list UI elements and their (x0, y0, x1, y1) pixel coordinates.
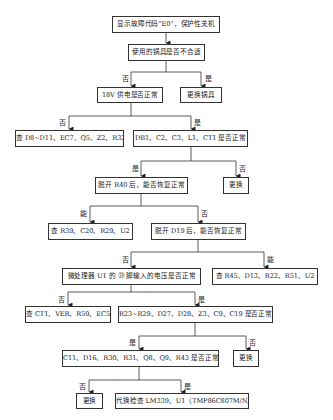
edge-label-no: 否 (59, 119, 66, 127)
edge-label-no: 否 (201, 210, 208, 218)
edge-label-no: 否 (239, 165, 246, 173)
edge-label-yes: 是 (198, 296, 205, 304)
node-c11-r43-check: C11、D16、R30、R31、Q8、Q9、R43 是否正常 (62, 350, 219, 367)
node-disconnect-d19: 脱开 D19 后，能否恢复正常 (151, 223, 246, 240)
node-replace-2: 更换 (233, 350, 259, 367)
node-u1-pin-voltage: 微处理器 U1 的 ㉓ 脚输入的电压是否正常 (62, 268, 201, 285)
edge-label-can: 能 (80, 210, 87, 218)
node-replace-3: 更换 (76, 393, 103, 409)
edge-label-no: 否 (122, 75, 129, 83)
node-disconnect-r40: 脱开 R40 后，能否恢复正常 (95, 177, 188, 194)
node-18v-supply-check: 18V 供电是否正常 (97, 87, 163, 103)
node-check-r45: 查 R45、D13、R22、R51、U2 (212, 268, 318, 285)
node-cookware-check: 使用的锅具是否不合适 (128, 44, 205, 61)
edge-label-no: 否 (249, 339, 256, 347)
edge-label-yes: 是 (184, 383, 191, 391)
edge-label-no: 否 (58, 296, 65, 304)
edge-label-yes: 是 (132, 165, 139, 173)
edge-label-yes: 是 (205, 75, 212, 83)
edge-label-can: 能 (267, 256, 274, 264)
node-substitute-lm339-u1: 代换检查 LM339、U1（TMP86C807M/N） (115, 393, 249, 409)
node-fault-code-e0: 显示故障代码“E0”，保护性关机 (112, 16, 220, 33)
flowchart: 显示故障代码“E0”，保护性关机 使用的锅具是否不合适 18V 供电是否正常 更… (0, 0, 333, 420)
edge-label-yes: 是 (129, 339, 136, 347)
node-check-r39: 查 R39、C20、R29、U2 (48, 223, 133, 240)
node-check-d8-d11: 查 D8~D11、EC7、Q5、Z2、R32 (15, 130, 124, 147)
node-check-ct1: 查 CT1、VER、R59、EC5 (25, 306, 111, 323)
node-r23-c19-check: R23~R29、D27、D28、Z3、C9、C19 是否正常 (118, 306, 273, 323)
edge-label-yes: 是 (194, 119, 201, 127)
node-db1-ct1-check: DB1、C2、C3、L1、CT1 是否正常 (133, 130, 248, 147)
node-replace-1: 更换 (223, 177, 249, 194)
edge-label-no: 否 (79, 383, 86, 391)
node-replace-cookware: 更换锅具 (180, 87, 222, 103)
edge-label-no: 否 (122, 256, 129, 264)
